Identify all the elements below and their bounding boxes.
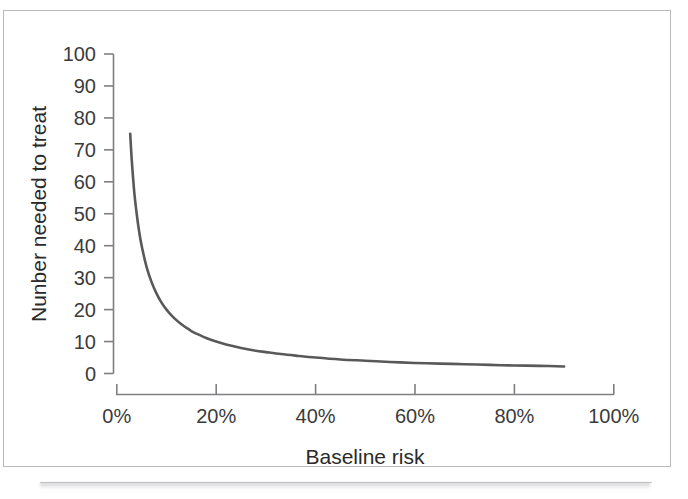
x-tick-label: 40% [296,405,336,427]
x-tick-label: 20% [196,405,236,427]
page-shadow [40,483,650,490]
y-axis: 100 90 80 70 60 50 40 30 20 10 0 Nunber … [27,43,114,385]
figure-frame: 100 90 80 70 60 50 40 30 20 10 0 Nunber … [3,10,671,467]
y-tick-label: 50 [74,203,96,225]
x-tick-label: 60% [395,405,435,427]
y-tick-label: 30 [74,267,96,289]
plot-series-group [130,134,564,367]
y-axis-title: Nunber needed to treat [27,106,50,322]
chart-canvas: 100 90 80 70 60 50 40 30 20 10 0 Nunber … [4,11,672,468]
y-tick-label: 60 [74,171,96,193]
y-tick-label: 20 [74,299,96,321]
y-tick-label: 100 [63,43,96,65]
y-tick-label: 80 [74,107,96,129]
nnt-curve-line [130,134,564,367]
y-tick-label: 70 [74,139,96,161]
y-tick-label: 10 [74,331,96,353]
x-tick-label: 0% [102,405,131,427]
x-axis: 0% 20% 40% 60% 80% 100% Baseline risk [102,384,639,468]
y-tick-label: 40 [74,235,96,257]
y-tick-label: 0 [85,363,96,385]
x-tick-label: 100% [588,405,639,427]
y-tick-label: 90 [74,75,96,97]
x-tick-label: 80% [494,405,534,427]
x-axis-title: Baseline risk [305,445,425,468]
